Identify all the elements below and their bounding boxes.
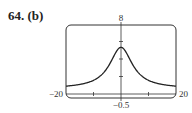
x-max-label: 20	[179, 89, 189, 99]
y-max-label: 8	[119, 13, 124, 23]
y-min-label: −0.5	[113, 100, 130, 110]
graph: 8 −0.5 −20 20	[0, 0, 192, 113]
x-min-label: −20	[49, 89, 64, 99]
